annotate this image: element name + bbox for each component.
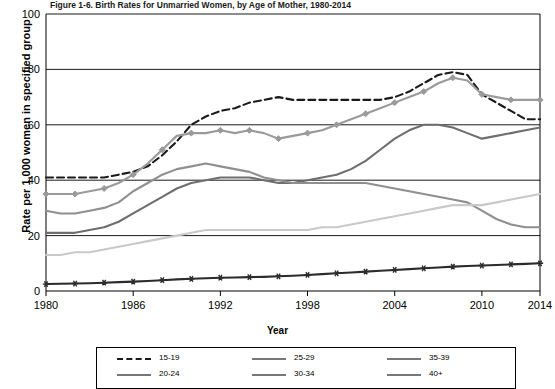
series-line-30-34 bbox=[46, 164, 540, 228]
x-tick-label: 1998 bbox=[295, 299, 319, 311]
series-marker-diamond bbox=[217, 127, 223, 133]
x-tick-label: 1992 bbox=[208, 299, 232, 311]
y-tick-label: 60 bbox=[28, 119, 40, 131]
series-marker-diamond bbox=[363, 111, 369, 117]
series-marker-star bbox=[72, 281, 78, 287]
y-tick-label: 100 bbox=[22, 8, 40, 20]
legend-swatch-15-19 bbox=[117, 358, 151, 360]
legend-label-20-24: 20-24 bbox=[159, 369, 179, 378]
series-marker-diamond bbox=[188, 130, 194, 136]
series-marker-star bbox=[450, 264, 456, 270]
legend-label-40plus: 40+ bbox=[429, 369, 443, 378]
series-marker-star bbox=[159, 277, 165, 283]
series-marker-star bbox=[275, 274, 281, 280]
y-tick-label: 80 bbox=[28, 63, 40, 75]
series-marker-star bbox=[304, 272, 310, 278]
series-marker-diamond bbox=[334, 122, 340, 128]
legend-label-35-39: 35-39 bbox=[429, 353, 449, 362]
x-tick-label: 2004 bbox=[382, 299, 406, 311]
series-marker-diamond bbox=[537, 97, 543, 103]
series-marker-diamond bbox=[305, 130, 311, 136]
series-marker-star bbox=[217, 275, 223, 281]
series-marker-star bbox=[101, 280, 107, 286]
legend-swatch-20-24 bbox=[117, 374, 151, 376]
series-marker-star bbox=[508, 262, 514, 268]
series-line-20-24 bbox=[46, 78, 540, 194]
series-marker-diamond bbox=[246, 127, 252, 133]
y-tick-label: 0 bbox=[34, 285, 40, 297]
x-tick-label: 1980 bbox=[34, 299, 58, 311]
series-line-35-39 bbox=[46, 194, 540, 255]
y-tick-label: 20 bbox=[28, 230, 40, 242]
series-marker-star bbox=[362, 269, 368, 275]
legend-swatch-35-39 bbox=[387, 358, 421, 360]
series-marker-star bbox=[130, 279, 136, 285]
series-line-40- bbox=[46, 263, 540, 284]
legend-label-30-34: 30-34 bbox=[294, 369, 314, 378]
series-line-25-29 bbox=[46, 125, 540, 233]
series-marker-star bbox=[246, 274, 252, 280]
series-marker-diamond bbox=[43, 191, 49, 197]
legend: 15-1920-2425-2930-3435-3940+ bbox=[96, 347, 516, 389]
series-marker-diamond bbox=[72, 191, 78, 197]
series-marker-star bbox=[188, 276, 194, 282]
x-tick-label: 2014 bbox=[528, 299, 552, 311]
series-marker-star bbox=[333, 271, 339, 277]
legend-swatch-25-29 bbox=[252, 358, 286, 360]
y-tick-label: 40 bbox=[28, 174, 40, 186]
series-marker-diamond bbox=[508, 97, 514, 103]
legend-label-15-19: 15-19 bbox=[159, 353, 179, 362]
legend-swatch-40plus bbox=[387, 374, 421, 376]
series-marker-diamond bbox=[450, 75, 456, 81]
series-marker-diamond bbox=[275, 136, 281, 142]
legend-label-25-29: 25-29 bbox=[294, 353, 314, 362]
series-marker-diamond bbox=[101, 186, 107, 192]
series-marker-star bbox=[479, 263, 485, 269]
series-marker-star bbox=[421, 266, 427, 272]
series-marker-star bbox=[392, 267, 398, 273]
x-tick-label: 1986 bbox=[121, 299, 145, 311]
series-marker-diamond bbox=[392, 100, 398, 106]
x-tick-label: 2010 bbox=[470, 299, 494, 311]
legend-swatch-30-34 bbox=[252, 374, 286, 376]
